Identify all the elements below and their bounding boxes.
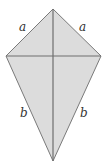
kite-diagram: a a b b: [0, 0, 104, 166]
label-upper-right-side: a: [79, 20, 86, 34]
label-lower-left-side: b: [20, 106, 28, 120]
label-upper-left-side: a: [19, 20, 26, 34]
label-lower-right-side: b: [80, 106, 88, 120]
